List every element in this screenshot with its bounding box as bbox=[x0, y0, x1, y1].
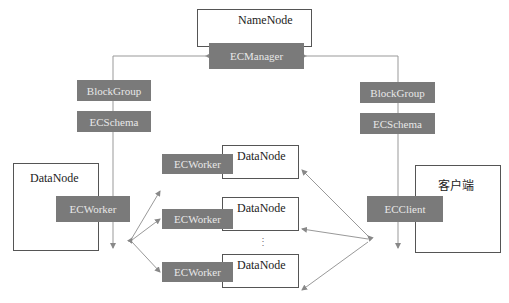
worker-ecworker-block-1[interactable]: ECWorker bbox=[162, 154, 233, 174]
namenode-box: NameNode bbox=[197, 9, 312, 47]
worker-ecworker-block-3[interactable]: ECWorker bbox=[162, 262, 233, 282]
worker-datanode-label-2: DataNode bbox=[237, 201, 286, 216]
worker-ecworker-block-2[interactable]: ECWorker bbox=[162, 209, 233, 229]
worker-datanode-box-1: DataNode bbox=[222, 145, 299, 179]
worker-datanode-label-1: DataNode bbox=[237, 149, 286, 164]
main-ecworker-block[interactable]: ECWorker bbox=[56, 196, 130, 222]
ecclient-block[interactable]: ECClient bbox=[367, 196, 443, 222]
worker-datanode-box-3: DataNode bbox=[222, 254, 299, 288]
left-ecschema-tag: ECSchema bbox=[77, 111, 151, 132]
left-blockgroup-tag: BlockGroup bbox=[77, 80, 151, 101]
ecmanager-block[interactable]: ECManager bbox=[209, 43, 304, 69]
worker-datanode-box-2: DataNode bbox=[222, 197, 299, 231]
worker-datanode-label-3: DataNode bbox=[237, 258, 286, 273]
right-blockgroup-tag: BlockGroup bbox=[360, 82, 435, 103]
namenode-label: NameNode bbox=[238, 13, 293, 28]
client-label: 客户端 bbox=[438, 176, 474, 194]
right-ecschema-tag: ECSchema bbox=[360, 113, 435, 134]
main-datanode-label: DataNode bbox=[30, 171, 79, 186]
ellipsis: ⋮ bbox=[258, 240, 268, 244]
